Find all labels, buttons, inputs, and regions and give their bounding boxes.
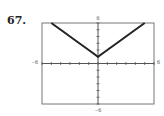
axes: [42, 23, 154, 104]
graph-plot: 6 −6 −6 6: [0, 0, 164, 116]
y-max-label: 6: [97, 15, 100, 21]
x-max-label: 6: [157, 59, 160, 65]
x-min-label: −6: [32, 59, 38, 65]
y-min-label: −6: [95, 107, 101, 113]
